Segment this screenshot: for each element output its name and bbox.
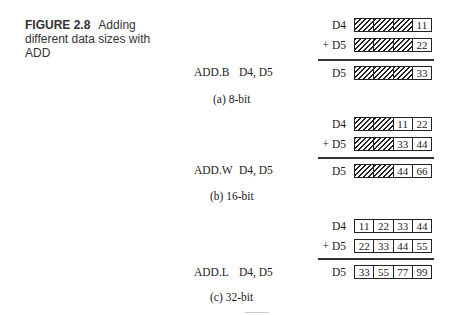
register-d5: 22 — [354, 38, 432, 52]
byte-cell: 44 — [394, 165, 413, 177]
byte-cell: 11 — [413, 19, 431, 31]
byte-cell: 77 — [394, 266, 413, 278]
byte-cell: 22 — [374, 220, 393, 232]
byte-cell: 11 — [394, 118, 413, 130]
byte-cell: 44 — [413, 220, 431, 232]
register-label: + D5 — [306, 137, 346, 151]
byte-cell-unused — [355, 165, 374, 177]
byte-cell-unused — [394, 39, 413, 51]
byte-cell: 33 — [374, 240, 393, 252]
byte-cell-unused — [374, 138, 393, 150]
register-d5: 33 44 — [354, 137, 432, 151]
byte-cell-unused — [374, 118, 393, 130]
register-label: D5 — [306, 164, 346, 178]
register-label: + D5 — [306, 38, 346, 52]
byte-cell: 22 — [413, 39, 431, 51]
register-label: D4 — [306, 117, 346, 131]
register-label: + D5 — [306, 239, 346, 253]
figure-number: FIGURE 2.8 — [25, 18, 90, 32]
byte-cell-unused — [355, 138, 374, 150]
sum-rule — [318, 59, 434, 61]
byte-cell: 44 — [394, 240, 413, 252]
byte-cell-unused — [374, 19, 393, 31]
register-label: D5 — [306, 265, 346, 279]
register-d5-result: 44 66 — [354, 164, 432, 178]
byte-cell: 33 — [413, 67, 431, 79]
register-d4: 11 22 — [354, 117, 432, 131]
sum-rule — [318, 258, 434, 260]
byte-cell-unused — [374, 39, 393, 51]
byte-cell: 33 — [394, 138, 413, 150]
register-d5: 22 33 44 55 — [354, 239, 432, 253]
byte-cell: 11 — [355, 220, 374, 232]
sum-rule — [318, 157, 434, 159]
byte-cell: 66 — [413, 165, 431, 177]
byte-cell: 33 — [355, 266, 374, 278]
register-label: D4 — [306, 219, 346, 233]
byte-cell: 99 — [413, 266, 431, 278]
subcaption: (b) 16-bit — [210, 190, 254, 202]
byte-cell-unused — [394, 67, 413, 79]
byte-cell-unused — [355, 67, 374, 79]
byte-cell: 44 — [413, 138, 431, 150]
page-edge-mark — [245, 312, 269, 313]
byte-cell-unused — [355, 118, 374, 130]
instruction-operands: D4, D5 — [239, 164, 273, 176]
register-label: D4 — [306, 18, 346, 32]
byte-cell-unused — [355, 39, 374, 51]
register-d5-result: 33 55 77 99 — [354, 265, 432, 279]
instruction-mnemonic: ADD.B — [194, 66, 229, 78]
byte-cell-unused — [394, 19, 413, 31]
instruction-mnemonic: ADD.L — [194, 266, 229, 278]
byte-cell: 22 — [413, 118, 431, 130]
byte-cell-unused — [374, 67, 393, 79]
figure-caption: FIGURE 2.8Adding different data sizes wi… — [25, 18, 165, 60]
byte-cell: 55 — [374, 266, 393, 278]
byte-cell-unused — [374, 165, 393, 177]
subcaption: (c) 32-bit — [210, 291, 253, 303]
register-d4: 11 22 33 44 — [354, 219, 432, 233]
subcaption: (a) 8-bit — [213, 93, 250, 105]
register-d5-result: 33 — [354, 66, 432, 80]
instruction-operands: D4, D5 — [239, 266, 273, 278]
instruction-operands: D4, D5 — [239, 66, 273, 78]
register-d4: 11 — [354, 18, 432, 32]
byte-cell: 22 — [355, 240, 374, 252]
instruction-mnemonic: ADD.W — [194, 164, 233, 176]
byte-cell: 33 — [394, 220, 413, 232]
byte-cell: 55 — [413, 240, 431, 252]
byte-cell-unused — [355, 19, 374, 31]
register-label: D5 — [306, 66, 346, 80]
